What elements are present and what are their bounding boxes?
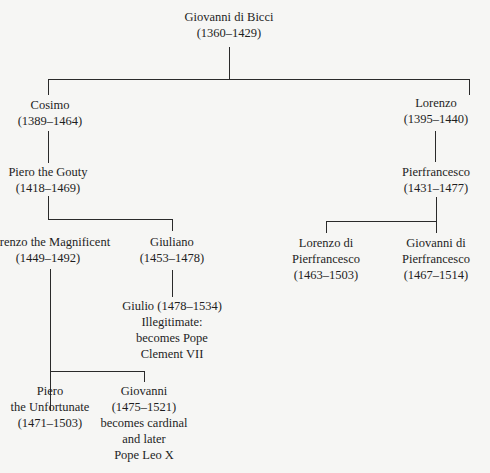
node-piero-the-unfortunate: Piero the Unfortunate (1471–1503) — [11, 383, 90, 431]
connector-line — [144, 371, 145, 382]
connector-line — [172, 270, 173, 297]
connector-line — [50, 371, 145, 372]
node-lorenzo-the-magnificent: Lorenzo the Magnificent (1449–1492) — [0, 234, 110, 266]
person-dates: (1418–1469) — [8, 180, 87, 196]
connector-line — [48, 79, 470, 80]
connector-line — [469, 79, 470, 95]
person-dates: (1471–1503) — [11, 415, 90, 431]
person-note: Pope Leo X — [100, 447, 187, 463]
person-note: and later — [100, 431, 187, 447]
family-tree-diagram: Giovanni di Bicci (1360–1429) Cosimo (13… — [0, 0, 490, 473]
person-name: Pierfrancesco — [402, 251, 470, 267]
node-giovanni-pope-leo-x: Giovanni (1475–1521) becomes cardinal an… — [100, 383, 187, 463]
node-giulio: Giulio (1478–1534) Illegitimate: becomes… — [122, 298, 222, 362]
connector-line — [48, 196, 49, 219]
person-name: Lorenzo — [404, 95, 469, 111]
person-note: becomes cardinal — [100, 415, 187, 431]
node-lorenzo-di-pierfrancesco: Lorenzo di Pierfrancesco (1463–1503) — [292, 235, 360, 283]
person-dates: (1453–1478) — [140, 250, 205, 266]
person-dates: (1360–1429) — [185, 25, 274, 41]
connector-line — [436, 197, 437, 221]
node-giovanni-di-bicci: Giovanni di Bicci (1360–1429) — [185, 9, 274, 41]
person-name: Cosimo — [18, 97, 83, 113]
person-dates: (1395–1440) — [404, 111, 469, 127]
connector-line — [326, 221, 327, 233]
node-giovanni-di-pierfrancesco: Giovanni di Pierfrancesco (1467–1514) — [402, 235, 470, 283]
node-lorenzo-elder: Lorenzo (1395–1440) — [404, 95, 469, 127]
person-name: Giovanni di — [402, 235, 470, 251]
connector-line — [326, 221, 437, 222]
person-note: becomes Pope — [122, 330, 222, 346]
connector-line — [436, 221, 437, 233]
connector-line — [172, 219, 173, 231]
person-name: Giovanni — [100, 383, 187, 399]
person-dates: (1463–1503) — [292, 267, 360, 283]
person-name: Giuliano — [140, 234, 205, 250]
connector-line — [48, 79, 49, 95]
person-dates: (1467–1514) — [402, 267, 470, 283]
person-name: Lorenzo the Magnificent — [0, 234, 110, 250]
node-pierfrancesco: Pierfrancesco (1431–1477) — [402, 164, 470, 196]
person-name: Giovanni di Bicci — [185, 9, 274, 25]
person-name: Lorenzo di — [292, 235, 360, 251]
connector-line — [435, 131, 436, 162]
person-note: Clement VII — [122, 346, 222, 362]
person-name: the Unfortunate — [11, 399, 90, 415]
connector-line — [229, 47, 230, 79]
connector-line — [48, 131, 49, 163]
person-name: Piero the Gouty — [8, 164, 87, 180]
node-giuliano: Giuliano (1453–1478) — [140, 234, 205, 266]
node-piero-the-gouty: Piero the Gouty (1418–1469) — [8, 164, 87, 196]
person-dates: (1389–1464) — [18, 113, 83, 129]
person-note: Illegitimate: — [122, 314, 222, 330]
connector-line — [48, 219, 173, 220]
person-dates: (1475–1521) — [100, 399, 187, 415]
person-name: Piero — [11, 383, 90, 399]
person-name-dates: Giulio (1478–1534) — [122, 298, 222, 314]
person-name: Pierfrancesco — [292, 251, 360, 267]
node-cosimo: Cosimo (1389–1464) — [18, 97, 83, 129]
person-dates: (1431–1477) — [402, 180, 470, 196]
person-dates: (1449–1492) — [0, 250, 110, 266]
person-name: Pierfrancesco — [402, 164, 470, 180]
